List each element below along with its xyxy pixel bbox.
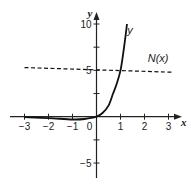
labels-group: xyyN(x) <box>86 7 188 128</box>
chart: −3−2−10123−5510 xyyN(x) <box>0 0 191 188</box>
series-group <box>25 24 172 120</box>
x-tick-label: 2 <box>142 121 148 132</box>
x-tick-label: 1 <box>118 121 124 132</box>
x-tick-label: −3 <box>19 121 31 132</box>
x-tick-label: −1 <box>67 121 79 132</box>
curve-label-n-of-x: N(x) <box>148 52 169 64</box>
axes: −3−2−10123−5510 <box>10 12 182 178</box>
y-tick-label: 5 <box>86 65 92 76</box>
curve-label-y: y <box>126 24 134 36</box>
dashed-line-n-of-x <box>25 68 172 73</box>
x-tick-label: 0 <box>87 121 93 132</box>
y-tick-label: 10 <box>80 19 92 30</box>
x-tick-label: 3 <box>166 121 172 132</box>
y-axis-arrow-icon <box>94 12 100 20</box>
x-tick-label: −2 <box>43 121 55 132</box>
y-axis-label: y <box>86 7 93 19</box>
x-axis-label: x <box>180 116 187 128</box>
curve-y <box>25 24 127 120</box>
y-tick-label: −5 <box>80 158 92 169</box>
